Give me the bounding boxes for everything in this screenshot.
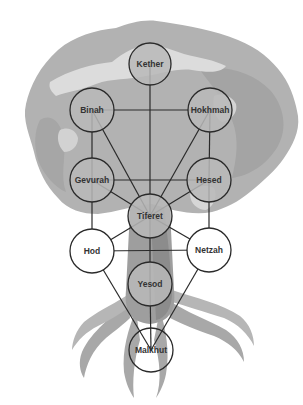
node-label: Tiferet <box>137 211 163 221</box>
node-label: Gevurah <box>75 175 110 185</box>
node-gevurah: Gevurah <box>70 158 114 202</box>
node-tiferet: Tiferet <box>128 194 172 238</box>
node-label: Yesod <box>137 279 162 289</box>
node-hokhmah: Hokhmah <box>188 88 232 132</box>
node-kether: Kether <box>129 43 171 85</box>
tree-of-life-diagram: Kether Binah Hokhmah Gevurah Hesed Tifer… <box>0 0 303 405</box>
node-label: Hokhmah <box>191 105 230 115</box>
node-yesod: Yesod <box>128 262 172 306</box>
node-label: Kether <box>137 59 165 69</box>
node-hod: Hod <box>70 229 114 273</box>
node-hesed: Hesed <box>187 158 231 202</box>
node-netzah: Netzah <box>187 228 231 272</box>
node-label: Hod <box>84 246 101 256</box>
node-binah: Binah <box>70 88 114 132</box>
node-label: Malkhut <box>135 345 167 355</box>
node-label: Netzah <box>195 245 223 255</box>
node-label: Hesed <box>196 175 222 185</box>
node-label: Binah <box>80 105 104 115</box>
